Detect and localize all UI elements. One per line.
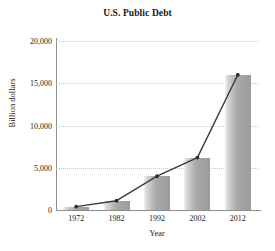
trend-markers	[74, 73, 239, 209]
x-axis-tick-label: 1982	[97, 214, 137, 223]
x-axis-title: Year	[56, 228, 258, 238]
trend-line	[76, 75, 238, 207]
y-axis-tick-label: 10,000	[8, 121, 52, 130]
data-point-marker	[196, 156, 200, 160]
y-axis-tick-label: 5,000	[8, 163, 52, 172]
data-point-marker	[155, 174, 159, 178]
y-axis-tick-label: 15,000	[8, 79, 52, 88]
x-axis-tick-label: 2002	[177, 214, 217, 223]
x-axis-tick-label: 2012	[218, 214, 258, 223]
x-axis-tick-label: 1992	[137, 214, 177, 223]
x-axis-tick-label: 1972	[56, 214, 96, 223]
data-point-marker	[115, 199, 119, 203]
y-axis-tick-label: 0	[8, 206, 52, 215]
plot-area	[56, 41, 258, 210]
chart-figure: U.S. Public Debt Billion dollars 05,0001…	[0, 0, 275, 251]
data-point-marker	[236, 73, 240, 77]
x-axis-line	[56, 210, 261, 211]
y-axis-tick-label: 20,000	[8, 37, 52, 46]
line-series	[56, 41, 258, 210]
y-axis-tick-labels: 05,00010,00015,00020,000	[6, 0, 52, 251]
data-point-marker	[74, 205, 78, 209]
